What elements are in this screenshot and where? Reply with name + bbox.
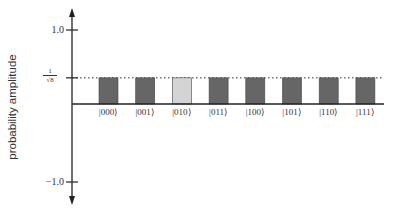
bar-0 (99, 78, 118, 104)
x-tick-label: |100⟩ (238, 107, 272, 117)
bar-4 (246, 78, 265, 104)
amplitude-bar-chart: probability amplitude 1.0 −1.0 1 √8 |000… (0, 0, 402, 213)
bar-1 (136, 78, 155, 104)
bar-7 (356, 78, 375, 104)
x-tick-label: |110⟩ (312, 107, 346, 117)
bar-6 (319, 78, 338, 104)
x-tick-label: |011⟩ (202, 107, 236, 117)
bar-5 (283, 78, 302, 104)
x-tick-label: |111⟩ (348, 107, 382, 117)
x-tick-label: |101⟩ (275, 107, 309, 117)
x-tick-label: |010⟩ (165, 107, 199, 117)
x-tick-label: |000⟩ (92, 107, 126, 117)
arrow-down-icon (69, 196, 75, 205)
bar-3 (209, 78, 228, 104)
arrow-up-icon (69, 8, 75, 17)
x-tick-label: |001⟩ (128, 107, 162, 117)
bar-2 (172, 78, 191, 104)
